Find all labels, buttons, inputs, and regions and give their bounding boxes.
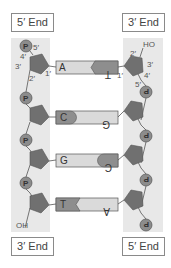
base-T-right: T: [105, 69, 111, 80]
base-A-left: A: [59, 62, 66, 73]
left-phosphate-1: P: [23, 42, 29, 51]
base-T-left: T: [60, 199, 66, 210]
base-G-left: G: [60, 155, 68, 166]
left-c1-label: 1′: [45, 69, 51, 78]
base-pair-1: A T: [56, 61, 118, 80]
right-c4-label: 4′: [144, 71, 150, 80]
right-c2-label: 2′: [130, 49, 136, 58]
right-phosphate-3: P: [143, 175, 149, 184]
right-phosphate-2: P: [143, 131, 149, 140]
left-terminal-oh: OH: [16, 221, 28, 230]
right-c1-label: 1′: [117, 71, 123, 80]
right-phosphate-1: P: [143, 87, 149, 96]
right-phosphate-4: P: [143, 220, 149, 229]
base-G-right: G: [102, 119, 110, 130]
right-terminal-ho: HO: [143, 40, 155, 49]
left-phosphate-4: P: [23, 179, 29, 188]
dna-diagram: A T C G G C T A P P P P P P P: [0, 0, 171, 268]
right-c3-label: 3′: [147, 60, 153, 69]
base-C-left: C: [60, 112, 67, 123]
base-A-right: A: [103, 206, 110, 217]
base-C-right: C: [105, 162, 112, 173]
left-c3-label: 3′: [15, 62, 21, 71]
left-c2-label: 2′: [29, 74, 35, 83]
left-c4-label: 4′: [20, 52, 26, 61]
glycosidic-bonds: [49, 66, 124, 205]
right-c5-label: 5′: [135, 80, 141, 89]
left-phosphate-3: P: [23, 136, 29, 145]
left-phosphate-2: P: [23, 94, 29, 103]
base-pair-2: C G: [56, 111, 118, 130]
base-pair-3: G C: [56, 154, 118, 173]
left-c5-label: 5′: [33, 43, 39, 52]
base-pair-4: T A: [56, 198, 118, 217]
